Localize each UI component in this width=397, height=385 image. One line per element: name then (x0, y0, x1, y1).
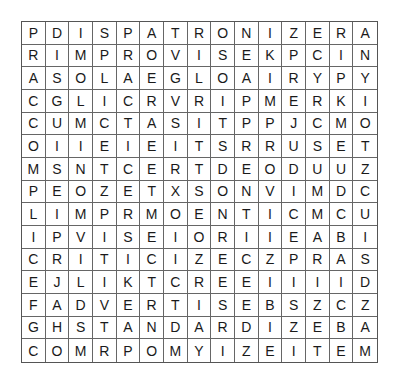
grid-cell[interactable]: M (330, 113, 354, 136)
grid-cell[interactable]: L (69, 271, 93, 294)
grid-cell[interactable]: P (235, 113, 259, 136)
grid-cell[interactable]: E (117, 294, 141, 317)
grid-cell[interactable]: A (353, 317, 377, 340)
grid-cell[interactable]: Z (306, 294, 330, 317)
grid-cell[interactable]: I (353, 90, 377, 113)
grid-cell[interactable]: I (188, 113, 212, 136)
grid-cell[interactable]: E (235, 158, 259, 181)
grid-cell[interactable]: C (282, 203, 306, 226)
grid-cell[interactable]: S (69, 317, 93, 340)
grid-cell[interactable]: D (235, 317, 259, 340)
grid-cell[interactable]: D (282, 158, 306, 181)
grid-cell[interactable]: R (164, 158, 188, 181)
grid-cell[interactable]: I (330, 271, 354, 294)
grid-cell[interactable]: Z (188, 249, 212, 272)
grid-cell[interactable]: R (306, 90, 330, 113)
grid-cell[interactable]: C (22, 339, 46, 362)
grid-cell[interactable]: S (117, 226, 141, 249)
grid-cell[interactable]: E (46, 181, 70, 204)
grid-cell[interactable]: A (306, 226, 330, 249)
grid-cell[interactable]: T (306, 339, 330, 362)
grid-cell[interactable]: D (46, 22, 70, 45)
grid-cell[interactable]: C (306, 45, 330, 68)
grid-cell[interactable]: C (117, 158, 141, 181)
grid-cell[interactable]: X (164, 181, 188, 204)
grid-cell[interactable]: C (22, 90, 46, 113)
grid-cell[interactable]: J (46, 271, 70, 294)
grid-cell[interactable]: M (69, 203, 93, 226)
grid-cell[interactable]: A (188, 317, 212, 340)
grid-cell[interactable]: E (330, 339, 354, 362)
grid-cell[interactable]: R (188, 22, 212, 45)
grid-cell[interactable]: M (140, 203, 164, 226)
grid-cell[interactable]: V (164, 45, 188, 68)
grid-cell[interactable]: Z (353, 294, 377, 317)
grid-cell[interactable]: B (330, 317, 354, 340)
grid-cell[interactable]: O (211, 22, 235, 45)
grid-cell[interactable]: Z (259, 249, 283, 272)
grid-cell[interactable]: O (22, 135, 46, 158)
grid-cell[interactable]: S (211, 135, 235, 158)
grid-cell[interactable]: A (330, 249, 354, 272)
grid-cell[interactable]: C (330, 203, 354, 226)
grid-cell[interactable]: I (164, 249, 188, 272)
grid-cell[interactable]: Z (282, 22, 306, 45)
grid-cell[interactable]: T (140, 271, 164, 294)
grid-cell[interactable]: I (46, 203, 70, 226)
grid-cell[interactable]: T (93, 158, 117, 181)
grid-cell[interactable]: I (46, 45, 70, 68)
grid-cell[interactable]: E (140, 158, 164, 181)
grid-cell[interactable]: R (46, 249, 70, 272)
grid-cell[interactable]: E (211, 249, 235, 272)
grid-cell[interactable]: O (211, 181, 235, 204)
grid-cell[interactable]: M (69, 113, 93, 136)
grid-cell[interactable]: V (164, 90, 188, 113)
grid-cell[interactable]: Y (188, 339, 212, 362)
grid-cell[interactable]: E (93, 135, 117, 158)
grid-cell[interactable]: M (259, 90, 283, 113)
grid-cell[interactable]: E (140, 67, 164, 90)
grid-cell[interactable]: O (188, 226, 212, 249)
grid-cell[interactable]: I (69, 249, 93, 272)
grid-cell[interactable]: K (117, 271, 141, 294)
grid-cell[interactable]: L (22, 203, 46, 226)
grid-cell[interactable]: N (353, 45, 377, 68)
grid-cell[interactable]: I (46, 135, 70, 158)
grid-cell[interactable]: I (117, 135, 141, 158)
grid-cell[interactable]: S (188, 181, 212, 204)
grid-cell[interactable]: P (330, 67, 354, 90)
grid-cell[interactable]: A (140, 113, 164, 136)
grid-cell[interactable]: O (69, 181, 93, 204)
grid-cell[interactable]: C (306, 113, 330, 136)
grid-cell[interactable]: D (164, 317, 188, 340)
grid-cell[interactable]: S (46, 158, 70, 181)
grid-cell[interactable]: M (69, 339, 93, 362)
grid-cell[interactable]: I (259, 203, 283, 226)
grid-cell[interactable]: P (259, 113, 283, 136)
grid-cell[interactable]: E (235, 271, 259, 294)
grid-cell[interactable]: R (188, 90, 212, 113)
grid-cell[interactable]: T (164, 294, 188, 317)
grid-cell[interactable]: S (93, 22, 117, 45)
grid-cell[interactable]: C (93, 113, 117, 136)
grid-cell[interactable]: E (235, 294, 259, 317)
grid-cell[interactable]: C (140, 249, 164, 272)
grid-cell[interactable]: T (188, 135, 212, 158)
grid-cell[interactable]: P (117, 339, 141, 362)
grid-cell[interactable]: Y (306, 67, 330, 90)
grid-cell[interactable]: S (164, 113, 188, 136)
grid-cell[interactable]: I (282, 271, 306, 294)
grid-cell[interactable]: O (140, 45, 164, 68)
grid-cell[interactable]: N (235, 181, 259, 204)
grid-cell[interactable]: L (93, 67, 117, 90)
grid-cell[interactable]: Z (235, 339, 259, 362)
grid-cell[interactable]: I (93, 226, 117, 249)
grid-cell[interactable]: L (188, 67, 212, 90)
grid-cell[interactable]: M (306, 181, 330, 204)
grid-cell[interactable]: A (117, 317, 141, 340)
grid-cell[interactable]: P (22, 181, 46, 204)
grid-cell[interactable]: C (353, 181, 377, 204)
grid-cell[interactable]: I (259, 271, 283, 294)
grid-cell[interactable]: R (117, 45, 141, 68)
grid-cell[interactable]: E (330, 135, 354, 158)
